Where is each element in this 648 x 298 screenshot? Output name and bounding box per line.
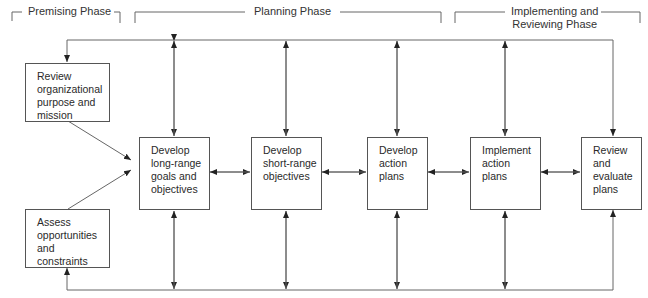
node-action-plans: Develop action plans — [367, 137, 428, 210]
planning-bracket-left — [135, 12, 245, 23]
node-implement-text: Implement action plans — [482, 144, 540, 183]
node-review-purpose-text: Review organizational purpose and missio… — [37, 70, 109, 122]
node-action-plans-text: Develop action plans — [379, 144, 427, 183]
node-implement: Implement action plans — [470, 137, 541, 210]
phase-label-premising: Premising Phase — [25, 5, 114, 18]
node-short-range-text: Develop short-range objectives — [263, 144, 321, 183]
node-evaluate: Review and evaluate plans — [581, 137, 642, 210]
premising-bracket-left — [12, 12, 22, 21]
node-assess-text: Assess opportunities and constraints — [37, 216, 109, 268]
phase-label-implementing: Implementing and Reviewing Phase — [508, 5, 601, 31]
implementing-bracket-left — [455, 12, 505, 23]
node-long-range-text: Develop long-range goals and objectives — [151, 144, 209, 196]
arrow-review-to-longrange — [68, 121, 131, 160]
node-assess: Assess opportunities and constraints — [25, 209, 110, 268]
node-short-range: Develop short-range objectives — [251, 137, 322, 210]
node-evaluate-text: Review and evaluate plans — [593, 144, 641, 196]
planning-process-diagram: Premising Phase Planning Phase Implement… — [0, 0, 648, 298]
node-long-range: Develop long-range goals and objectives — [139, 137, 210, 210]
phase-label-planning: Planning Phase — [251, 5, 334, 18]
planning-bracket-right — [340, 12, 441, 23]
node-review-purpose: Review organizational purpose and missio… — [25, 63, 110, 122]
arrow-assess-to-longrange — [68, 170, 131, 209]
